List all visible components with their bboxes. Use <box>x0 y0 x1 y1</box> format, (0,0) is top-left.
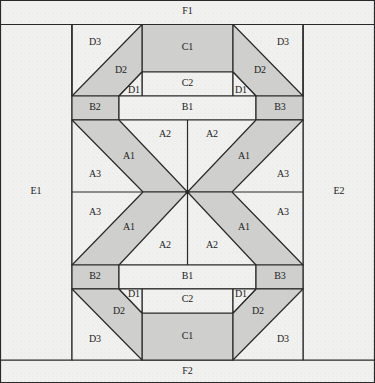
label-b2-bottom: B2 <box>89 270 101 281</box>
label-f1: F1 <box>182 5 193 16</box>
label-d1-bottom-right: D1 <box>235 288 247 299</box>
label-a3-lr: A3 <box>277 206 289 217</box>
label-d3-top-left: D3 <box>89 36 101 47</box>
label-a2-ur: A2 <box>206 128 218 139</box>
label-e1: E1 <box>30 185 41 196</box>
label-f2: F2 <box>182 365 193 376</box>
label-a2-lr: A2 <box>206 239 218 250</box>
label-d3-bottom-left: D3 <box>89 333 101 344</box>
label-c2-bottom: C2 <box>182 293 194 304</box>
label-c2-top: C2 <box>182 77 194 88</box>
label-a1-ul: A1 <box>123 150 135 161</box>
label-d1-top-right: D1 <box>235 84 247 95</box>
label-d2-top-left: D2 <box>115 64 127 75</box>
label-b3-top: B3 <box>274 101 286 112</box>
label-e2: E2 <box>333 185 344 196</box>
label-d2-bottom-right: D2 <box>252 305 264 316</box>
label-a3-ul: A3 <box>89 168 101 179</box>
label-a2-ul: A2 <box>159 128 171 139</box>
label-a3-ur: A3 <box>277 168 289 179</box>
label-b1-top: B1 <box>182 101 194 112</box>
label-c1-top: C1 <box>182 41 194 52</box>
label-b2-top: B2 <box>89 101 101 112</box>
label-a2-ll: A2 <box>159 239 171 250</box>
label-d1-bottom-left: D1 <box>128 288 140 299</box>
label-d1-top-left: D1 <box>128 84 140 95</box>
label-a3-ll: A3 <box>89 206 101 217</box>
label-a1-ll: A1 <box>123 221 135 232</box>
label-c1-bottom: C1 <box>182 330 194 341</box>
label-d3-bottom-right: D3 <box>277 333 289 344</box>
label-d2-top-right: D2 <box>254 64 266 75</box>
label-d2-bottom-left: D2 <box>113 305 125 316</box>
quilt-block-diagram: F1 F2 E1 E2 D3 D2 D1 C1 C2 D1 D2 D3 B2 B… <box>0 0 375 383</box>
label-b3-bottom: B3 <box>274 270 286 281</box>
label-b1-bottom: B1 <box>182 270 194 281</box>
label-a1-lr: A1 <box>238 221 250 232</box>
label-a1-ur: A1 <box>238 150 250 161</box>
label-d3-top-right: D3 <box>277 36 289 47</box>
